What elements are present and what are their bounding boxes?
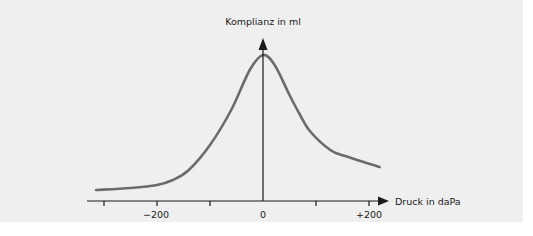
compliance-curve-path	[96, 55, 380, 190]
y-axis-label: Komplianz in ml	[225, 16, 301, 27]
chart-canvas: Komplianz in ml Druck in daPa −200 0 +20…	[0, 0, 533, 236]
compliance-curve	[96, 55, 380, 190]
x-tick-label-zero: 0	[260, 209, 266, 220]
x-axis-arrow-icon	[378, 197, 389, 206]
x-tick-label-plus-200: +200	[356, 209, 382, 220]
x-axis-label: Druck in daPa	[395, 196, 461, 207]
x-axis-ticks	[104, 201, 369, 206]
x-tick-label-minus-200: −200	[143, 209, 169, 220]
y-axis-arrow-icon	[259, 38, 268, 50]
